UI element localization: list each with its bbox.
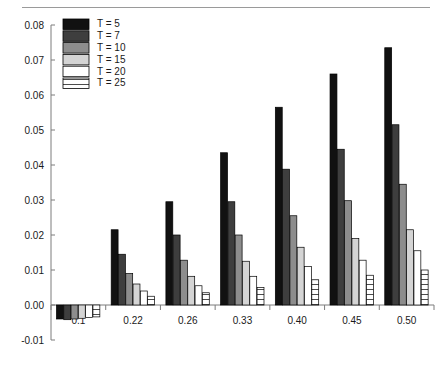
chart-figure: -0.010.000.010.020.030.040.050.060.070.0… (0, 0, 441, 365)
x-tick-label: 0.50 (397, 315, 417, 326)
y-tick-label: 0.07 (25, 55, 45, 66)
bar (221, 153, 228, 305)
legend-swatch (63, 31, 89, 42)
y-tick-label: 0.04 (25, 160, 45, 171)
y-tick-label: 0.08 (25, 20, 45, 31)
y-tick-label: -0.01 (21, 335, 44, 346)
bar (312, 280, 319, 305)
legend-label: T = 20 (97, 66, 126, 77)
bar (297, 247, 304, 305)
legend-label: T = 10 (97, 42, 126, 53)
legend-swatch (63, 54, 89, 65)
bar-series-group (56, 48, 428, 320)
x-tick-label: 0.22 (123, 315, 143, 326)
bar (290, 216, 297, 305)
legend-label: T = 15 (97, 54, 126, 65)
bar (133, 284, 140, 305)
y-tick-label: 0.05 (25, 125, 45, 136)
bar (352, 239, 359, 306)
legend-label: T = 25 (97, 77, 126, 88)
bar (86, 305, 93, 318)
bar (173, 235, 180, 305)
bar (64, 305, 71, 320)
bar (305, 267, 312, 306)
bar (421, 270, 428, 305)
legend-swatch (63, 19, 89, 30)
legend-label: T = 7 (97, 30, 120, 41)
bar (93, 305, 100, 317)
bar (140, 291, 147, 305)
bar (407, 230, 414, 305)
bar (148, 296, 155, 305)
legend-swatch (63, 66, 89, 77)
bar (243, 261, 250, 305)
bar (111, 230, 118, 305)
bar (257, 288, 264, 306)
bar (283, 169, 290, 305)
x-tick-label: 0.45 (342, 315, 362, 326)
bar (235, 235, 242, 305)
y-tick-label: 0.00 (25, 300, 45, 311)
bar (345, 201, 352, 305)
bar (392, 125, 399, 305)
bar (228, 202, 235, 305)
bar (180, 260, 187, 305)
y-tick-label: 0.01 (25, 265, 45, 276)
x-tick-label: 0.33 (233, 315, 253, 326)
legend-swatch (63, 43, 89, 54)
bar (71, 305, 78, 319)
legend-label: T = 5 (97, 18, 120, 29)
bar (367, 275, 374, 305)
y-tick-label: 0.02 (25, 230, 45, 241)
bar (385, 48, 392, 305)
y-tick-label: 0.03 (25, 195, 45, 206)
x-tick-label: 0.40 (287, 315, 307, 326)
chart-legend: T = 5T = 7T = 10T = 15T = 20T = 25 (63, 18, 126, 88)
bar (337, 149, 344, 305)
bar (250, 276, 257, 305)
bar (56, 305, 63, 319)
bar-chart-plot: -0.010.000.010.020.030.040.050.060.070.0… (0, 0, 441, 365)
y-tick-label: 0.06 (25, 90, 45, 101)
x-tick-label: 0.26 (178, 315, 198, 326)
bar (399, 184, 406, 305)
bar (78, 305, 85, 318)
legend-swatch (63, 78, 89, 89)
bar (330, 74, 337, 305)
bar (359, 260, 366, 305)
bar (275, 107, 282, 305)
bar (126, 274, 133, 306)
bar (202, 293, 209, 305)
bar (166, 202, 173, 305)
bar (414, 251, 421, 305)
bar (118, 254, 125, 305)
bar (195, 286, 202, 305)
bar (188, 276, 195, 305)
